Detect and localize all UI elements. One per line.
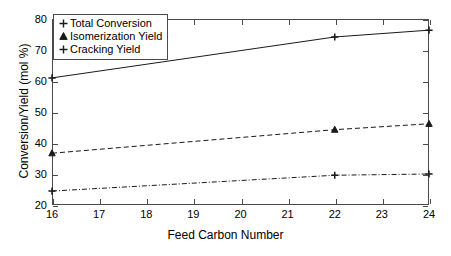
y-tick bbox=[53, 175, 58, 176]
x-tick bbox=[194, 199, 195, 204]
x-tick-label: 23 bbox=[367, 208, 397, 220]
y-tick-label: 30 bbox=[21, 168, 47, 180]
y-tick-right bbox=[423, 20, 428, 21]
y-tick-right bbox=[423, 82, 428, 83]
legend-label: Cracking Yield bbox=[70, 43, 140, 56]
x-tick-label: 18 bbox=[131, 208, 161, 220]
y-tick-right bbox=[423, 144, 428, 145]
x-tick-top bbox=[336, 20, 337, 25]
x-tick bbox=[336, 199, 337, 204]
x-tick bbox=[147, 199, 148, 204]
legend-label: Total Conversion bbox=[70, 17, 152, 30]
plus-marker-icon bbox=[57, 43, 70, 56]
legend-item-isomerization-yield: Isomerization Yield bbox=[57, 30, 162, 43]
x-tick bbox=[430, 199, 431, 204]
x-tick bbox=[53, 199, 54, 204]
x-tick-top bbox=[430, 20, 431, 25]
x-tick-top bbox=[289, 20, 290, 25]
x-tick bbox=[289, 199, 290, 204]
y-tick-right bbox=[423, 51, 428, 52]
y-tick-right bbox=[423, 113, 428, 114]
x-axis-title: Feed Carbon Number bbox=[0, 228, 451, 242]
y-tick-label: 40 bbox=[21, 137, 47, 149]
x-tick-top bbox=[242, 20, 243, 25]
y-tick-label: 80 bbox=[21, 13, 47, 25]
legend-label: Isomerization Yield bbox=[70, 30, 162, 43]
y-tick bbox=[53, 113, 58, 114]
plus-marker-icon bbox=[57, 17, 70, 30]
x-tick bbox=[100, 199, 101, 204]
x-tick-label: 17 bbox=[84, 208, 114, 220]
y-tick-label: 70 bbox=[21, 44, 47, 56]
y-tick-right bbox=[423, 206, 428, 207]
y-tick-label: 20 bbox=[21, 199, 47, 211]
x-tick bbox=[383, 199, 384, 204]
y-tick-right bbox=[423, 175, 428, 176]
triangle-marker-icon bbox=[57, 30, 70, 43]
x-tick-label: 20 bbox=[226, 208, 256, 220]
chart-figure: Conversion/Yield (mol %) 161718192021222… bbox=[0, 0, 451, 256]
y-tick-label: 60 bbox=[21, 75, 47, 87]
x-tick-top bbox=[194, 20, 195, 25]
x-tick-label: 22 bbox=[320, 208, 350, 220]
x-tick bbox=[242, 199, 243, 204]
chart-legend: Total Conversion Isomerization Yield Cra… bbox=[53, 14, 168, 60]
y-tick bbox=[53, 82, 58, 83]
legend-item-cracking-yield: Cracking Yield bbox=[57, 43, 162, 56]
y-tick-label: 50 bbox=[21, 106, 47, 118]
legend-item-total-conversion: Total Conversion bbox=[57, 17, 162, 30]
x-tick-label: 24 bbox=[414, 208, 444, 220]
x-tick-label: 19 bbox=[178, 208, 208, 220]
y-tick bbox=[53, 144, 58, 145]
x-tick-top bbox=[383, 20, 384, 25]
x-tick-label: 21 bbox=[273, 208, 303, 220]
y-tick bbox=[53, 206, 58, 207]
